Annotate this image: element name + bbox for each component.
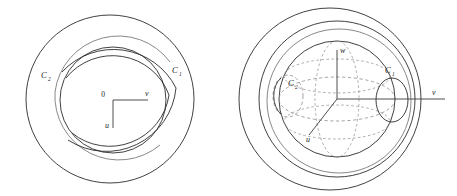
left-curve-c2-label-text: C — [41, 70, 47, 80]
right-curve-c1-circle — [376, 78, 408, 122]
sphere-latitude-lower-ellipse — [284, 105, 390, 139]
sphere-axis-u-label: u — [306, 135, 310, 144]
right-panel: w v u C 1 C 2 — [239, 8, 445, 190]
left-panel: 0 v u C 1 C 2 — [26, 15, 194, 183]
left-axis-u-label: u — [105, 121, 109, 130]
left-outer-circle — [26, 15, 194, 183]
figure-root: 0 v u C 1 C 2 — [0, 0, 457, 196]
right-grey-circle — [267, 29, 411, 173]
left-curve-c2-label-sub: 2 — [48, 76, 51, 82]
right-curve-c1-label-sub: 1 — [392, 71, 395, 77]
right-curve-c2-label: C 2 — [288, 78, 298, 90]
left-origin-label: 0 — [101, 90, 105, 99]
right-curve-c1-label-text: C — [385, 65, 391, 75]
left-axis-v-label: v — [145, 89, 149, 98]
sphere-axis-u-line — [309, 99, 337, 135]
left-curve-c1-label: C 1 — [172, 65, 182, 77]
left-spiral-arc-upper-grey — [55, 36, 170, 92]
sphere-axis-w-label: w — [340, 46, 346, 55]
left-curve-c2-label: C 2 — [41, 70, 51, 82]
right-curve-c2-label-text: C — [288, 78, 294, 88]
sphere-axis-v-label: v — [432, 88, 436, 97]
left-curve-c2-arc-lower — [72, 95, 169, 146]
figure-svg: 0 v u C 1 C 2 — [0, 0, 457, 196]
left-curve-c1-label-text: C — [172, 65, 178, 75]
left-curve-c1-label-sub: 1 — [179, 71, 182, 77]
right-curve-c2-label-sub: 2 — [295, 84, 298, 90]
left-curve-c1-arc — [62, 49, 176, 88]
